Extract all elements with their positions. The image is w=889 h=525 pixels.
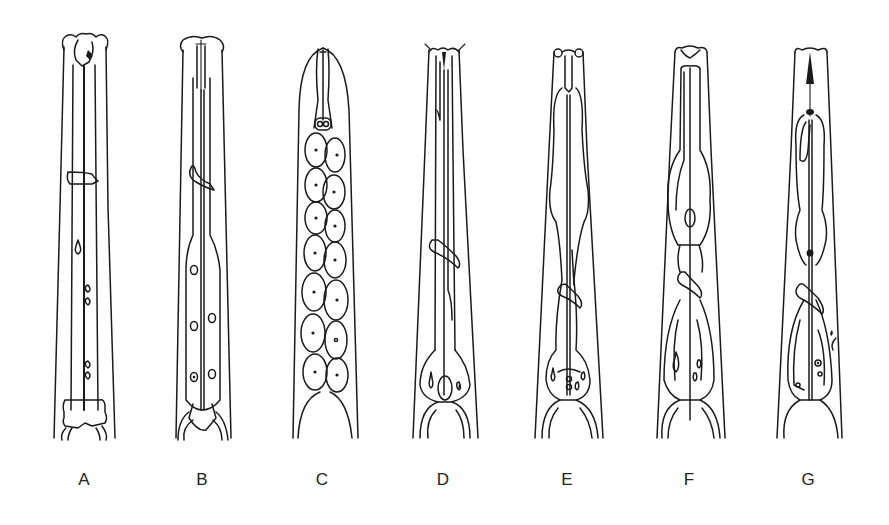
- panel-b-drawing: [176, 36, 231, 440]
- panel-d-drawing: [413, 44, 478, 438]
- panel-a-drawing: [54, 33, 115, 440]
- panel-e-drawing: [535, 49, 603, 438]
- panel-label-f: F: [674, 470, 704, 490]
- panel-label-b: B: [187, 470, 217, 490]
- panel-label-g: G: [793, 470, 823, 490]
- panel-label-d: D: [428, 470, 458, 490]
- panel-label-a: A: [69, 470, 99, 490]
- panel-c-drawing: [293, 48, 358, 438]
- nematode-anterior-diagram: [0, 0, 889, 525]
- panel-label-e: E: [552, 470, 582, 490]
- panel-label-c: C: [307, 470, 337, 490]
- panel-g-drawing: [777, 48, 842, 438]
- panel-f-drawing: [657, 46, 725, 438]
